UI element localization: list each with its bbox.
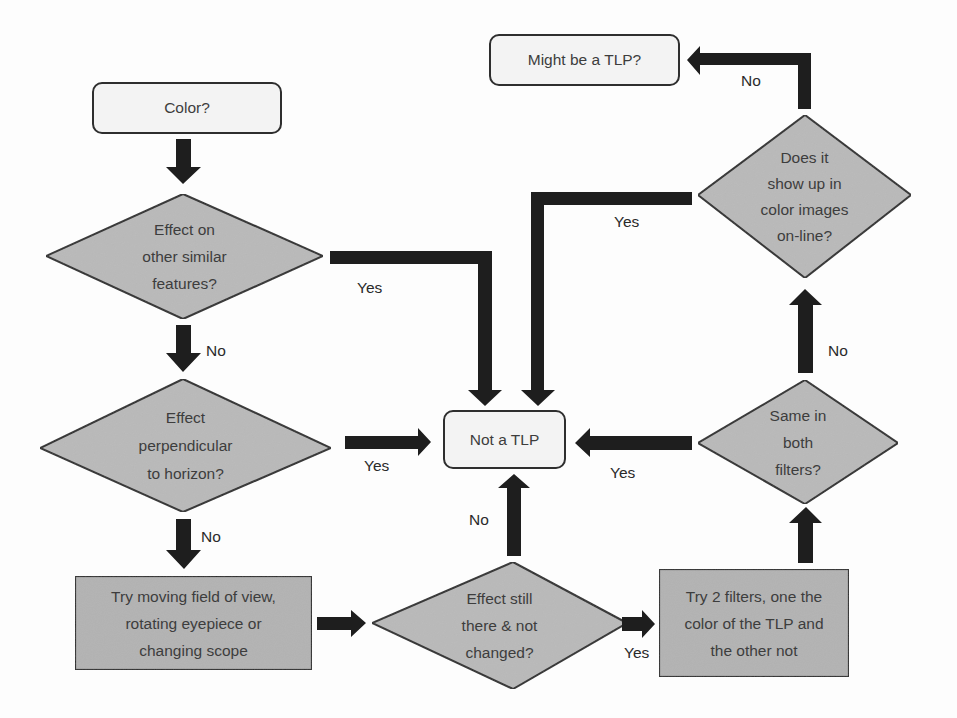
arrow-still-to-not-tlp bbox=[498, 474, 530, 556]
arrow-similar-to-perpendicular bbox=[166, 325, 201, 372]
arrows bbox=[166, 46, 822, 638]
edge-label-still-yes: Yes bbox=[624, 644, 649, 662]
arrow-color-to-similar bbox=[166, 139, 201, 184]
arrow-same-to-show-online bbox=[789, 289, 822, 373]
flowchart-shapes bbox=[0, 0, 957, 718]
arrow-still-to-try-filters bbox=[622, 610, 655, 638]
edge-label-perpendicular-yes: Yes bbox=[364, 457, 389, 475]
arrow-perpendicular-to-not-tlp bbox=[345, 428, 431, 456]
arrow-try-filters-to-same bbox=[789, 507, 822, 563]
arrow-similar-to-not-tlp bbox=[330, 251, 502, 406]
edge-label-similar-yes: Yes bbox=[357, 279, 382, 297]
arrow-show-online-to-not-tlp bbox=[521, 192, 692, 406]
flowchart-canvas: Color? Effect on other similar features?… bbox=[0, 0, 957, 718]
node-effect-similar-shape bbox=[46, 194, 323, 319]
node-color-shape bbox=[93, 83, 281, 133]
node-effect-still-shape bbox=[372, 562, 627, 689]
arrow-try-moving-to-still bbox=[317, 610, 366, 637]
edge-label-same-no: No bbox=[828, 342, 848, 360]
edge-label-show-online-no: No bbox=[741, 72, 761, 90]
node-might-be-shape bbox=[490, 35, 679, 85]
arrow-perpendicular-to-try-moving bbox=[166, 519, 201, 569]
edge-label-similar-no: No bbox=[206, 342, 226, 360]
edge-label-same-yes: Yes bbox=[610, 464, 635, 482]
node-not-tlp-shape bbox=[444, 411, 565, 468]
arrow-same-to-not-tlp bbox=[575, 428, 692, 457]
node-try-filters-shape bbox=[659, 569, 849, 677]
node-same-filters-shape bbox=[698, 380, 898, 504]
edge-label-still-no: No bbox=[469, 511, 489, 529]
node-show-online-shape bbox=[698, 115, 911, 278]
node-try-moving-shape bbox=[75, 576, 312, 670]
node-effect-perpendicular-shape bbox=[40, 379, 331, 512]
edge-label-show-online-yes: Yes bbox=[614, 213, 639, 231]
edge-label-perpendicular-no: No bbox=[201, 528, 221, 546]
